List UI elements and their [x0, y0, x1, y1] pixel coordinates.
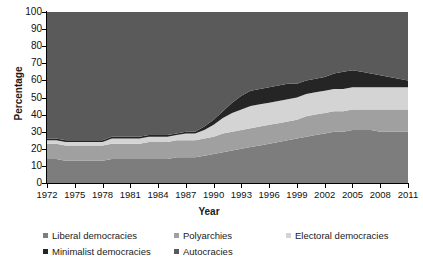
y-tick-label: 10 — [16, 161, 42, 171]
y-tick-label: 30 — [16, 127, 42, 137]
y-tick-mark — [42, 80, 46, 81]
x-tick-mark — [352, 184, 353, 188]
y-tick-mark — [42, 29, 46, 30]
legend-label: Liberal democracies — [52, 230, 137, 241]
x-tick-mark — [297, 184, 298, 188]
x-tick-mark — [47, 184, 48, 188]
legend-item-polyarchies[interactable]: Polyarchies — [174, 230, 232, 241]
x-tick-label: 2005 — [337, 190, 367, 200]
legend-item-minimalist-democracies[interactable]: Minimalist democracies — [43, 246, 151, 257]
legend-item-autocracies[interactable]: Autocracies — [174, 246, 233, 257]
legend-swatch-icon — [286, 233, 291, 238]
y-tick-mark — [42, 63, 46, 64]
y-tick-mark — [42, 46, 46, 47]
y-tick-label: 50 — [16, 93, 42, 103]
legend-label: Electoral democracies — [295, 230, 388, 241]
legend-label: Minimalist democracies — [52, 246, 151, 257]
x-tick-mark — [186, 184, 187, 188]
x-tick-label: 2011 — [393, 190, 423, 200]
x-axis-tick-labels: 1972197519781981198419871990199319961999… — [0, 190, 418, 204]
y-tick-mark — [42, 12, 46, 13]
x-tick-label: 1972 — [32, 190, 62, 200]
legend-swatch-icon — [174, 233, 179, 238]
y-tick-mark — [42, 115, 46, 116]
x-tick-label: 1990 — [199, 190, 229, 200]
x-tick-mark — [158, 184, 159, 188]
x-tick-label: 1984 — [143, 190, 173, 200]
y-tick-label: 70 — [16, 58, 42, 68]
x-tick-mark — [130, 184, 131, 188]
x-tick-label: 1999 — [282, 190, 312, 200]
plot-area — [47, 12, 408, 183]
y-tick-mark — [42, 98, 46, 99]
x-axis-title: Year — [0, 206, 418, 217]
legend-item-liberal-democracies[interactable]: Liberal democracies — [43, 230, 137, 241]
x-tick-mark — [241, 184, 242, 188]
y-tick-mark — [42, 166, 46, 167]
legend-swatch-icon — [43, 233, 48, 238]
legend-label: Polyarchies — [183, 230, 232, 241]
x-tick-label: 1981 — [115, 190, 145, 200]
y-tick-mark — [42, 132, 46, 133]
x-tick-mark — [75, 184, 76, 188]
y-tick-label: 60 — [16, 75, 42, 85]
y-tick-label: 100 — [16, 7, 42, 17]
legend-label: Autocracies — [183, 246, 233, 257]
y-tick-label: 90 — [16, 24, 42, 34]
y-tick-label: 40 — [16, 110, 42, 120]
chart-legend: Liberal democraciesPolyarchiesElectoral … — [0, 230, 418, 264]
y-tick-label: 80 — [16, 41, 42, 51]
legend-item-electoral-democracies[interactable]: Electoral democracies — [286, 230, 388, 241]
x-tick-mark — [380, 184, 381, 188]
y-tick-mark — [42, 149, 46, 150]
y-tick-label: 0 — [16, 178, 42, 188]
x-tick-label: 1978 — [88, 190, 118, 200]
x-tick-mark — [269, 184, 270, 188]
x-tick-label: 1993 — [226, 190, 256, 200]
x-tick-mark — [408, 184, 409, 188]
x-tick-mark — [325, 184, 326, 188]
y-tick-label: 20 — [16, 144, 42, 154]
x-tick-label: 2008 — [365, 190, 395, 200]
x-axis-line — [46, 183, 409, 184]
x-tick-mark — [103, 184, 104, 188]
x-tick-label: 1987 — [171, 190, 201, 200]
x-tick-label: 1975 — [60, 190, 90, 200]
legend-swatch-icon — [174, 249, 179, 254]
area-series-group — [47, 12, 408, 183]
x-tick-label: 2002 — [310, 190, 340, 200]
x-tick-mark — [214, 184, 215, 188]
y-tick-mark — [42, 183, 46, 184]
legend-swatch-icon — [43, 249, 48, 254]
x-tick-label: 1996 — [254, 190, 284, 200]
